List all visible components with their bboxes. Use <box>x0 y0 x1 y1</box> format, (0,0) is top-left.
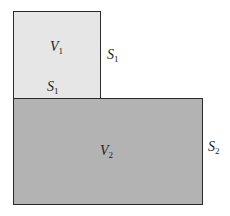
label-s1-side: S1 <box>107 48 119 64</box>
label-v1: V1 <box>50 40 63 56</box>
label-v2: V2 <box>100 144 113 160</box>
label-s2-side: S2 <box>208 140 220 156</box>
label-s1-bottom: S1 <box>47 80 59 96</box>
